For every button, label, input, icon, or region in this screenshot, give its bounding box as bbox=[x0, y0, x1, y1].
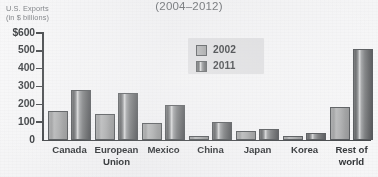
y-axis-tick-label: 400 bbox=[18, 62, 35, 73]
legend-swatch-2011 bbox=[196, 61, 207, 72]
bar-2011 bbox=[353, 49, 373, 140]
chart-legend: 20022011 bbox=[188, 38, 264, 74]
bar-2011 bbox=[71, 90, 91, 140]
bar-group bbox=[283, 33, 326, 140]
y-axis-tick-label: 0 bbox=[29, 134, 35, 145]
bar-2002 bbox=[330, 107, 350, 140]
chart-figure: (2004–2012) U.S. Exports (in $ billions)… bbox=[0, 0, 378, 177]
x-axis-label-line: Rest of bbox=[320, 144, 378, 156]
bar-2011 bbox=[306, 133, 326, 140]
y-axis-tick-label: 300 bbox=[18, 80, 35, 91]
bar-2011 bbox=[165, 105, 185, 140]
bar-group bbox=[330, 33, 373, 140]
y-axis-caption-line2: (in $ billions) bbox=[6, 13, 49, 22]
bar-group bbox=[142, 33, 185, 140]
bar-group bbox=[95, 33, 138, 140]
legend-label-2011: 2011 bbox=[213, 60, 236, 71]
y-axis-tick-label: 500 bbox=[18, 44, 35, 55]
bar-2002 bbox=[236, 131, 256, 140]
legend-label-2002: 2002 bbox=[213, 44, 236, 55]
y-axis-tick-label: 100 bbox=[18, 116, 35, 127]
y-axis-tick-label: $600 bbox=[12, 27, 35, 38]
bar-2002 bbox=[95, 114, 115, 140]
bar-2011 bbox=[212, 122, 232, 140]
y-axis-tick-label: 200 bbox=[18, 98, 35, 109]
bar-group bbox=[48, 33, 91, 140]
bar-2002 bbox=[48, 111, 68, 140]
bar-2011 bbox=[118, 93, 138, 140]
x-axis-label-line: Union bbox=[85, 156, 148, 168]
x-axis-label-line: world bbox=[320, 156, 378, 168]
y-axis-caption: U.S. Exports (in $ billions) bbox=[6, 4, 49, 23]
bar-2002 bbox=[142, 123, 162, 140]
legend-swatch-2002 bbox=[196, 45, 207, 56]
chart-title: (2004–2012) bbox=[0, 0, 378, 12]
y-axis-caption-line1: U.S. Exports bbox=[6, 4, 49, 13]
bar-2002 bbox=[283, 136, 303, 140]
bar-2002 bbox=[189, 136, 209, 140]
x-axis-label: Rest ofworld bbox=[320, 144, 378, 167]
bar-2011 bbox=[259, 129, 279, 140]
